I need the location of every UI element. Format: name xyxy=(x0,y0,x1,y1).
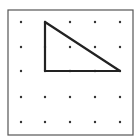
grid-dot xyxy=(94,96,96,98)
grid-dot xyxy=(20,96,22,98)
grid-dot xyxy=(20,70,22,72)
grid-dot xyxy=(20,21,22,23)
grid-dot xyxy=(69,121,71,123)
grid-dot xyxy=(94,46,96,48)
grid-dot xyxy=(119,96,121,98)
grid-dot xyxy=(69,46,71,48)
grid-dot xyxy=(20,121,22,123)
grid-dot xyxy=(69,21,71,23)
grid-frame xyxy=(8,10,133,135)
grid-dot xyxy=(94,21,96,23)
grid-dot xyxy=(20,46,22,48)
dot-grid-diagram xyxy=(0,0,140,140)
grid-dot xyxy=(44,121,46,123)
grid-dot xyxy=(69,96,71,98)
grid-dot xyxy=(119,46,121,48)
grid-dot xyxy=(119,121,121,123)
right-triangle xyxy=(45,22,120,71)
grid-dot xyxy=(94,121,96,123)
grid-dot xyxy=(119,21,121,23)
grid-dot xyxy=(44,96,46,98)
